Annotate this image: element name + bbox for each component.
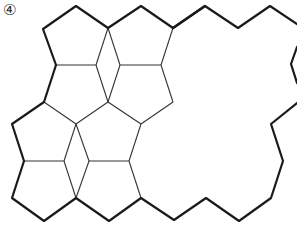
inner-edge [141,102,173,124]
inner-edge [76,161,89,198]
inner-edge [76,102,108,124]
inner-edge [129,161,141,198]
inner-edge [108,28,120,65]
inner-edge [96,28,108,65]
inner-edge [129,124,141,161]
inner-edge [108,102,141,124]
pentagon-tiling-diagram [0,0,297,239]
outer-boundary-top-zigzag [173,6,297,28]
inner-edge [161,65,173,102]
inner-edge [96,65,108,102]
outer-boundary-right-zigzag [291,47,297,83]
inner-edges [24,28,173,198]
inner-edge [76,124,89,161]
inner-edge [64,161,76,198]
inner-edge [108,65,120,102]
inner-edge [44,102,76,124]
outer-boundary [12,6,297,221]
inner-edge [161,28,173,65]
inner-edge [64,124,76,161]
